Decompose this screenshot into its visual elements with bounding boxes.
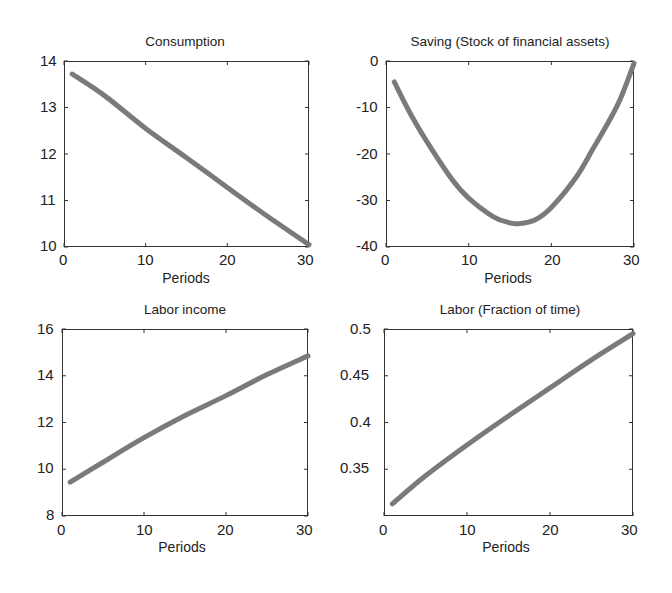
- y-tick: 11: [40, 191, 56, 208]
- y-tick: 0.4: [350, 413, 371, 430]
- y-tick: -20: [356, 145, 378, 162]
- y-tick: -40: [356, 237, 378, 254]
- y-tick: 0.45: [340, 366, 369, 383]
- y-tick: 13: [40, 98, 57, 115]
- y-tick: 16: [37, 320, 54, 337]
- y-tick: 0.5: [350, 320, 371, 337]
- x-tick: 30: [296, 521, 313, 538]
- x-tick: 10: [461, 251, 478, 268]
- x-tick: 20: [217, 521, 234, 538]
- x-tick: 10: [459, 521, 476, 538]
- x-tick: 30: [621, 521, 638, 538]
- y-tick: 0: [370, 52, 378, 69]
- x-tick: 20: [542, 521, 559, 538]
- subplot-title: Labor income: [125, 302, 245, 317]
- x-axis-label: Periods: [456, 539, 556, 555]
- labor-income-line: [62, 329, 308, 516]
- labor-fraction-line: [384, 329, 633, 516]
- x-axis-label: Periods: [136, 270, 236, 286]
- x-tick: 10: [136, 521, 153, 538]
- y-tick: 12: [37, 413, 54, 430]
- x-tick: 0: [379, 521, 387, 538]
- x-tick: 0: [59, 251, 67, 268]
- subplot-title: Consumption: [130, 34, 240, 49]
- x-tick: 20: [544, 251, 561, 268]
- y-tick: 8: [46, 506, 54, 523]
- y-tick: 10: [40, 237, 57, 254]
- x-axis-label: Periods: [458, 270, 558, 286]
- x-tick: 30: [623, 251, 640, 268]
- x-tick: 10: [137, 251, 154, 268]
- y-tick: 0.35: [340, 459, 369, 476]
- y-tick: -10: [356, 98, 378, 115]
- x-tick: 0: [57, 521, 65, 538]
- y-tick: -30: [356, 191, 378, 208]
- x-tick: 0: [381, 251, 389, 268]
- subplot-title: Labor (Fraction of time): [410, 302, 610, 317]
- saving-line: [386, 61, 634, 247]
- y-tick: 12: [40, 145, 57, 162]
- x-tick: 30: [297, 251, 314, 268]
- x-axis-label: Periods: [132, 539, 232, 555]
- y-tick: 14: [37, 366, 54, 383]
- subplot-title: Saving (Stock of financial assets): [380, 34, 640, 49]
- consumption-line: [64, 61, 309, 247]
- x-tick: 20: [219, 251, 236, 268]
- y-tick: 14: [40, 52, 57, 69]
- y-tick: 10: [37, 459, 54, 476]
